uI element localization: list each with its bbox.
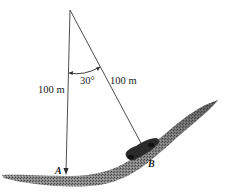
point-b-label: B bbox=[147, 158, 155, 169]
vertical-length-label: 100 m bbox=[38, 84, 65, 95]
angle-arc bbox=[69, 67, 100, 74]
point-a-label: A bbox=[54, 165, 62, 176]
slant-length-label: 100 m bbox=[110, 75, 137, 86]
arc-arrow-left-icon bbox=[69, 71, 73, 75]
pendulum-hill-diagram: 100 m 100 m 30° A B bbox=[0, 0, 234, 196]
angle-label: 30° bbox=[80, 75, 95, 86]
arrowhead-a-icon bbox=[64, 168, 69, 175]
ground-hill bbox=[2, 100, 218, 187]
vertical-line bbox=[66, 10, 70, 172]
